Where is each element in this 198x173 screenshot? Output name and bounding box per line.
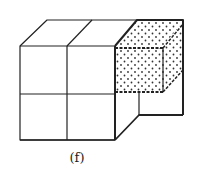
dotted-front — [115, 48, 163, 92]
cube-diagram — [0, 0, 198, 173]
figure-caption: (f) — [62, 150, 92, 165]
